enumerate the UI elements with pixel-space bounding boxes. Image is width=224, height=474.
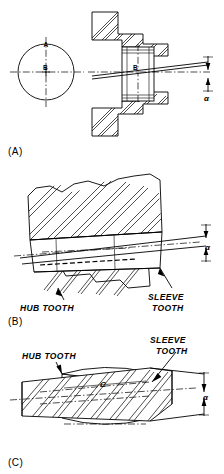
- panel-a-end-view-circle: A B: [10, 37, 84, 107]
- panel-b-sleeve-tooth-label-line1: SLEEVE: [148, 292, 184, 302]
- panel-a-hub-body: B: [122, 44, 154, 104]
- panel-c-dimension-c-label: C: [100, 380, 106, 389]
- panel-b-hub-tooth-callout: HUB TOOTH: [20, 288, 74, 313]
- panel-c-sleeve-band: [0, 360, 208, 454]
- panel-b-label: (B): [8, 316, 23, 327]
- panel-b-angle-dimension: α: [201, 224, 211, 262]
- panel-b-sleeve-tooth-label-line2: TOOTH: [152, 303, 184, 313]
- panel-c-hub-tooth-label: HUB TOOTH: [22, 351, 76, 361]
- panel-b-sleeve-tooth-callout: SLEEVE TOOTH: [148, 268, 184, 313]
- panel-c-angle-dimension: α: [199, 372, 209, 416]
- panel-a-label: (A): [8, 146, 23, 157]
- panel-c-sleeve-tooth-label-line2: TOOTH: [156, 346, 188, 356]
- panel-c-sleeve-tooth-label-line1: SLEEVE: [150, 335, 186, 345]
- panel-a-alpha-label: α: [204, 94, 210, 103]
- circle-datum-a-label: A: [44, 41, 49, 48]
- panel-b-hub-tooth-label: HUB TOOTH: [20, 303, 74, 313]
- panel-b-alpha-label: α: [205, 243, 211, 252]
- panel-b-group: α SLEEVE TOOTH HUB TOOTH (B): [0, 170, 220, 327]
- circle-datum-b-label: B: [43, 64, 48, 71]
- engineering-drawing-figure: A B: [0, 0, 224, 474]
- panel-a-group: A B: [8, 0, 217, 164]
- panel-a-angle-dimension: α: [203, 56, 213, 103]
- panel-c-label: (C): [8, 457, 23, 468]
- panel-c-group: C α HUB TOOTH SLEEVE: [0, 335, 209, 468]
- panel-c-hub-tooth-callout: HUB TOOTH: [22, 351, 76, 374]
- panel-c-alpha-label: α: [203, 393, 209, 402]
- section-datum-b-label: B: [133, 64, 138, 71]
